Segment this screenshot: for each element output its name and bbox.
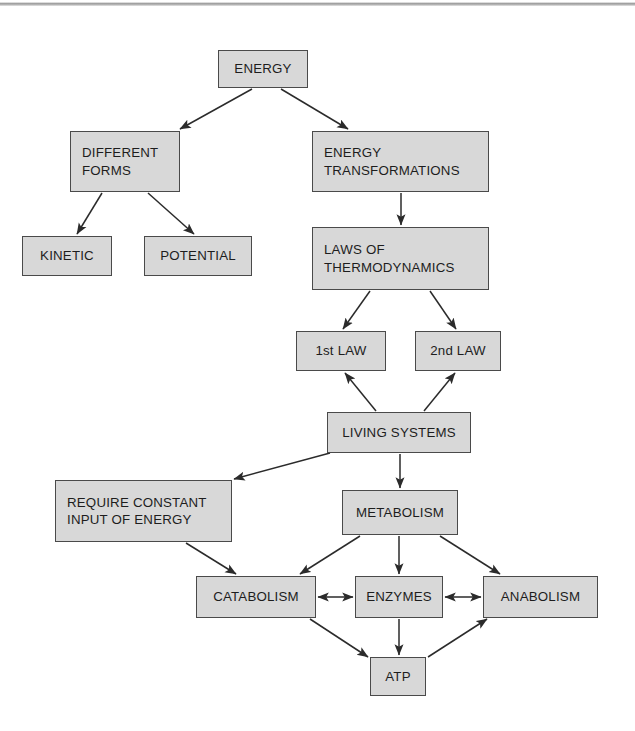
- node-transform[interactable]: ENERGY TRANSFORMATIONS: [312, 131, 489, 192]
- edge-different-to-kinetic: [77, 193, 102, 234]
- node-laws[interactable]: LAWS OF THERMODYNAMICS: [312, 227, 489, 290]
- diagram-page: ENERGYDIFFERENT FORMSENERGY TRANSFORMATI…: [0, 0, 635, 731]
- node-anabolism[interactable]: ANABOLISM: [483, 576, 598, 618]
- edge-metabolism-to-catabolism: [300, 536, 360, 574]
- edge-energy-to-different: [180, 89, 252, 129]
- edge-different-to-potential: [148, 193, 194, 234]
- node-enzymes[interactable]: ENZYMES: [355, 576, 443, 618]
- node-energy[interactable]: ENERGY: [218, 50, 308, 88]
- node-potential[interactable]: POTENTIAL: [144, 236, 252, 276]
- edge-catabolism-to-atp: [310, 619, 368, 657]
- edge-living-to-law1: [345, 373, 376, 411]
- node-catabolism[interactable]: CATABOLISM: [196, 576, 316, 618]
- edge-metabolism-to-anabolism: [440, 536, 500, 574]
- edge-laws-to-law2: [430, 291, 456, 329]
- node-living[interactable]: LIVING SYSTEMS: [327, 412, 471, 453]
- node-metabolism[interactable]: METABOLISM: [342, 490, 458, 535]
- edge-living-to-require: [234, 453, 330, 479]
- edge-living-to-law2: [424, 373, 455, 411]
- edge-energy-to-transform: [281, 89, 348, 129]
- node-law1[interactable]: 1st LAW: [296, 331, 386, 371]
- node-kinetic[interactable]: KINETIC: [22, 236, 112, 276]
- edge-laws-to-law1: [343, 291, 370, 329]
- edge-atp-to-anabolism: [428, 619, 487, 657]
- edge-require-to-catabolism: [186, 543, 236, 574]
- node-different[interactable]: DIFFERENT FORMS: [70, 131, 180, 192]
- node-law2[interactable]: 2nd LAW: [415, 331, 501, 371]
- node-atp[interactable]: ATP: [370, 657, 426, 696]
- node-require[interactable]: REQUIRE CONSTANT INPUT OF ENERGY: [55, 480, 232, 542]
